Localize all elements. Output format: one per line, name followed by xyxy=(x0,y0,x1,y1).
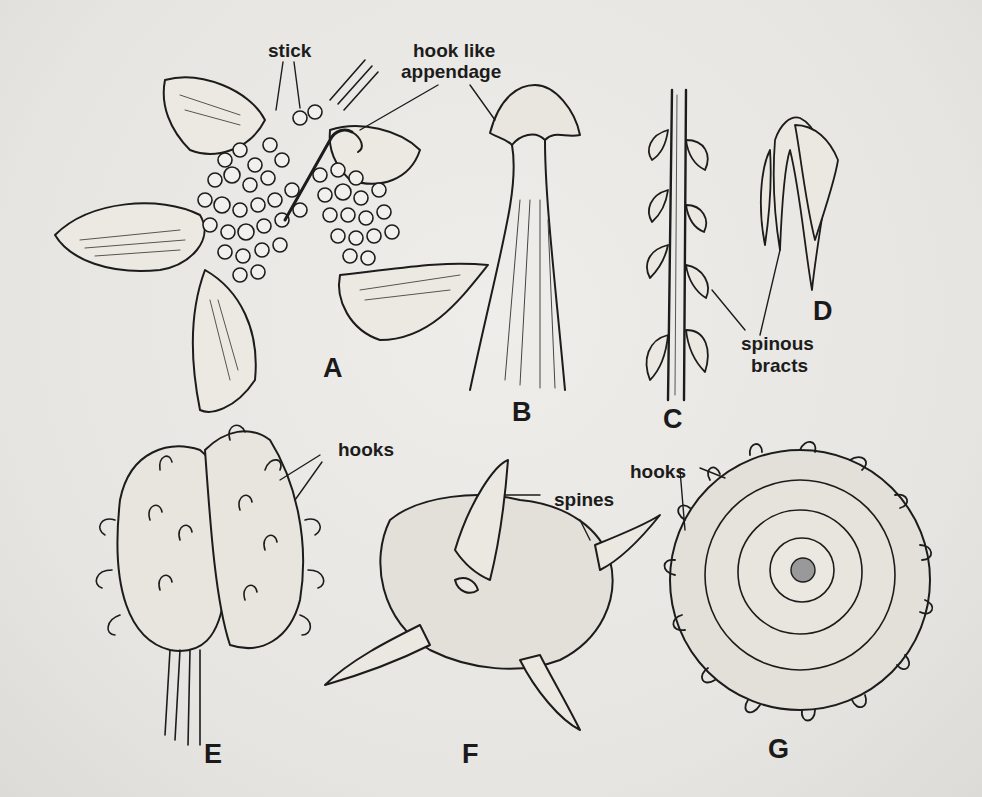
panel-letter-a: A xyxy=(323,354,343,382)
fruit-e-drawing xyxy=(96,425,323,745)
label-hook-like-line1: hook like xyxy=(413,41,495,61)
panel-letter-b: B xyxy=(512,398,532,426)
label-spinous-line1: spinous xyxy=(741,334,814,354)
panel-letter-c: C xyxy=(663,405,683,433)
panel-letter-f: F xyxy=(462,740,479,768)
label-hooks-g: hooks xyxy=(630,462,686,482)
label-hooks-e: hooks xyxy=(338,440,394,460)
stamen-b-drawing xyxy=(470,85,580,390)
label-spinous-line2: bracts xyxy=(751,356,808,376)
label-spines: spines xyxy=(554,490,614,510)
botanical-illustration xyxy=(0,0,982,797)
stem-c-drawing xyxy=(647,90,745,400)
label-stick: stick xyxy=(268,41,311,61)
panel-letter-e: E xyxy=(204,740,222,768)
figure-page: ​ xyxy=(0,0,982,797)
flower-a-drawing xyxy=(55,60,488,412)
panel-letter-d: D xyxy=(813,297,833,325)
fruit-g-drawing xyxy=(664,442,932,721)
panel-letter-g: G xyxy=(768,735,789,763)
label-hook-like-line2: appendage xyxy=(401,62,501,82)
